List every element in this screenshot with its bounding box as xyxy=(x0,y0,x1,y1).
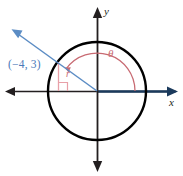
x-axis-right-arrowhead xyxy=(167,87,178,97)
y-axis-label: y xyxy=(104,6,109,17)
theta-arc-path xyxy=(66,53,135,91)
unit-circle-figure: y x (−4, 3) θ r xyxy=(0,0,183,176)
x-axis-left-arrowhead xyxy=(5,87,15,96)
y-axis-down-arrowhead xyxy=(93,161,102,172)
figure-canvas xyxy=(0,0,183,176)
radius-label: r xyxy=(66,69,70,79)
theta-label: θ xyxy=(108,48,113,59)
point-coordinate-label: (−4, 3) xyxy=(8,59,41,71)
x-axis-positive-segment xyxy=(97,87,178,97)
x-axis-label: x xyxy=(169,97,174,108)
y-axis-up-arrowhead xyxy=(93,7,102,18)
theta-arc xyxy=(65,53,135,91)
right-angle-marker xyxy=(59,83,68,92)
